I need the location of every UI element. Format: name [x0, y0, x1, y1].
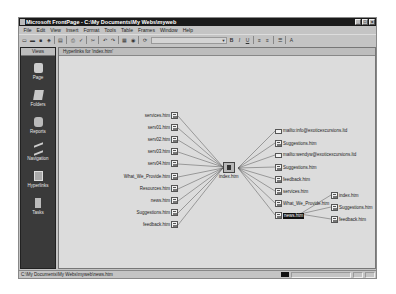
page-icon: [331, 216, 338, 223]
view-hyperlinks[interactable]: Hyperlinks: [21, 168, 55, 191]
view-page-label: Page: [33, 75, 44, 80]
new-page-icon[interactable]: ▭: [21, 37, 28, 44]
outgoing-page[interactable]: feedback.htm: [275, 176, 310, 183]
hyperlink-icon[interactable]: ◉: [129, 37, 136, 44]
sub-link-page[interactable]: feedback.htm: [331, 216, 366, 223]
redo-icon[interactable]: ↷: [109, 37, 116, 44]
toolbar-separator: [54, 36, 55, 44]
incoming-page[interactable]: Resources.htm: [140, 185, 178, 192]
hyperlinks-canvas[interactable]: services.htm serv01.htm serv02.htm serv0…: [59, 56, 375, 268]
folder-list-icon[interactable]: ▤: [57, 37, 64, 44]
view-navigation[interactable]: Navigation: [21, 141, 55, 164]
incoming-page[interactable]: Suggestions.htm: [136, 209, 178, 216]
spelling-icon[interactable]: ✓: [77, 37, 84, 44]
menu-view[interactable]: View: [48, 27, 64, 33]
menu-insert[interactable]: Insert: [63, 27, 81, 33]
incoming-page[interactable]: news.htm: [151, 197, 178, 204]
menu-help[interactable]: Help: [180, 27, 195, 33]
outgoing-page-selected[interactable]: news.htm: [275, 212, 304, 219]
incoming-page[interactable]: serv03.htm: [148, 148, 178, 155]
outgoing-mailto[interactable]: mailto:info@exoticexcursions.ltd: [275, 128, 347, 134]
view-folders-label: Folders: [30, 102, 45, 107]
tasks-icon: [35, 198, 41, 208]
page-icon: [275, 176, 282, 183]
incoming-page[interactable]: What_We_Provide.htm: [124, 173, 178, 180]
page-icon: [275, 212, 282, 219]
page-icon: [171, 197, 178, 204]
view-reports[interactable]: Reports: [21, 114, 55, 137]
hyperlinks-view: Hyperlinks for 'index.htm': [58, 47, 376, 269]
menu-bar: File Edit View Insert Format Tools Table…: [19, 26, 376, 34]
page-icon: [275, 164, 282, 171]
view-page[interactable]: Page: [21, 60, 55, 83]
italic-button[interactable]: I: [236, 37, 243, 44]
toolbar-separator: [138, 36, 139, 44]
sub-link-page[interactable]: Suggestions.htm: [331, 204, 373, 211]
incoming-page[interactable]: feedback.htm: [143, 221, 178, 228]
menu-frames[interactable]: Frames: [135, 27, 157, 33]
toolbar-separator: [118, 36, 119, 44]
outgoing-mailto[interactable]: mailto:wendyw@exoticexcursions.ltd: [275, 152, 356, 158]
status-path: C:\My Documents\My Webs\myweb\news.htm: [21, 272, 113, 277]
save-icon[interactable]: ■: [37, 37, 44, 44]
undo-icon[interactable]: ↶: [101, 37, 108, 44]
page-icon: [331, 204, 338, 211]
insert-component-icon[interactable]: ▦: [121, 37, 128, 44]
menu-format[interactable]: Format: [81, 27, 102, 33]
align-center-icon[interactable]: ≡: [264, 37, 271, 44]
incoming-page[interactable]: services.htm: [145, 112, 178, 119]
page-icon: [275, 188, 282, 195]
publish-icon[interactable]: ◈: [45, 37, 52, 44]
page-icon: [275, 200, 282, 207]
view-hyperlinks-label: Hyperlinks: [27, 183, 48, 188]
style-dropdown[interactable]: ▼: [151, 37, 227, 44]
reports-icon: [34, 117, 43, 127]
view-tasks[interactable]: Tasks: [21, 195, 55, 218]
hyperlink-lines: [59, 56, 375, 268]
page-icon: [171, 160, 178, 167]
menu-window[interactable]: Window: [157, 27, 180, 33]
outgoing-page[interactable]: Suggestions.htm: [275, 164, 317, 171]
open-icon[interactable]: ▬: [29, 37, 36, 44]
outgoing-page[interactable]: services.htm: [275, 188, 308, 195]
underline-button[interactable]: U: [244, 37, 251, 44]
frontpage-app-icon: [20, 19, 25, 25]
bold-button[interactable]: B: [228, 37, 235, 44]
menu-tools[interactable]: Tools: [102, 27, 119, 33]
minimize-button[interactable]: _: [355, 19, 361, 25]
incoming-page[interactable]: serv04.htm: [148, 160, 178, 167]
outgoing-page[interactable]: What_We_Provide.htm: [275, 200, 329, 207]
menu-edit[interactable]: Edit: [34, 27, 48, 33]
toolbar-separator: [253, 36, 254, 44]
menu-file[interactable]: File: [21, 27, 34, 33]
bullets-icon[interactable]: ☰: [276, 37, 283, 44]
view-folders[interactable]: Folders: [21, 87, 55, 110]
refresh-icon[interactable]: ⟳: [141, 37, 148, 44]
cut-icon[interactable]: ✂: [89, 37, 96, 44]
view-title: Hyperlinks for 'index.htm': [59, 48, 375, 56]
page-icon: [171, 221, 178, 228]
page-icon: [171, 173, 178, 180]
navigation-icon: [34, 142, 43, 155]
window-title: Microsoft FrontPage - C:\My Documents\My…: [26, 19, 176, 25]
menu-table[interactable]: Table: [118, 27, 135, 33]
align-left-icon[interactable]: ≡: [256, 37, 263, 44]
toolbar-separator: [98, 36, 99, 44]
outgoing-page[interactable]: Suggestions.htm: [275, 140, 317, 147]
page-icon: [171, 148, 178, 155]
standard-toolbar: ▭ ▬ ■ ◈ ▤ ⎙ ✓ ✂ ↶ ↷ ▦ ◉ ⟳ ▼ B I U ≡ ≡ ☰ …: [19, 34, 376, 45]
chevron-down-icon: ▼: [221, 38, 226, 43]
maximize-button[interactable]: □: [362, 19, 368, 25]
incoming-page[interactable]: serv01.htm: [148, 124, 178, 131]
page-icon: [331, 192, 338, 199]
font-color-icon[interactable]: A: [288, 37, 295, 44]
center-page-index[interactable]: index.htm: [219, 162, 239, 180]
incoming-page[interactable]: serv02.htm: [148, 136, 178, 143]
print-icon[interactable]: ⎙: [69, 37, 76, 44]
views-header: Views: [21, 48, 55, 56]
views-bar: Views Page Folders Reports Navigation Hy…: [20, 47, 56, 269]
view-reports-label: Reports: [30, 129, 46, 134]
status-cell: [291, 272, 351, 278]
sub-link-page[interactable]: index.htm: [331, 192, 359, 199]
close-button[interactable]: x: [369, 19, 375, 25]
